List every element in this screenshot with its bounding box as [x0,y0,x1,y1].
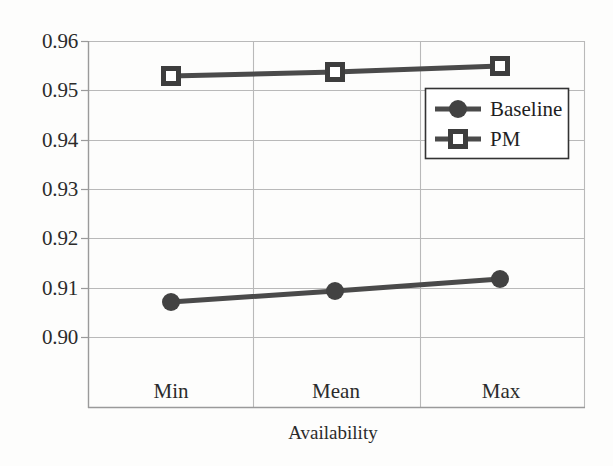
series-baseline [162,270,509,311]
series-pm-marker-max [493,59,508,74]
ytick-label-096: 0.96 [18,29,78,54]
series-baseline-marker-max [491,270,509,288]
ytick-label-091: 0.91 [18,276,78,301]
x-axis-title: Availability [183,422,483,444]
legend-label-baseline: Baseline [490,97,562,122]
ytick-label-093: 0.93 [18,177,78,202]
ytick-label-090: 0.90 [18,325,78,350]
chart-figure: 0.96 0.95 0.94 0.93 0.92 0.91 0.90 Min M… [0,0,613,466]
ytick-label-092: 0.92 [18,226,78,251]
xtick-label-mean: Mean [276,379,396,404]
y-tick-marks [81,42,88,338]
series-pm-marker-min [164,69,179,84]
series-baseline-marker-mean [326,282,344,300]
series-baseline-marker-min [162,293,180,311]
series-pm-marker-mean [328,65,343,80]
legend-swatch-baseline-marker [449,100,467,118]
xtick-label-min: Min [111,379,231,404]
xtick-label-max: Max [441,379,561,404]
series-pm [164,59,508,84]
legend-swatch-pm-marker [451,132,466,147]
ytick-label-094: 0.94 [18,128,78,153]
ytick-label-095: 0.95 [18,78,78,103]
legend-label-pm: PM [490,127,520,152]
